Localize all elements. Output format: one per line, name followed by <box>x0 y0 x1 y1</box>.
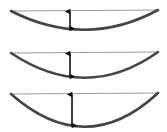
beam-panel-2 <box>11 52 158 78</box>
arc-curve-3 <box>11 93 158 127</box>
arc-curve-1 <box>11 10 158 30</box>
beam-panel-3 <box>11 93 158 127</box>
diagram-canvas <box>0 0 167 132</box>
beam-panel-1 <box>11 10 158 30</box>
chord-line-1 <box>11 10 158 11</box>
chord-line-3 <box>11 93 158 94</box>
chord-line-2 <box>11 52 158 53</box>
arc-curve-2 <box>11 52 158 78</box>
diagram-svg <box>0 0 167 132</box>
